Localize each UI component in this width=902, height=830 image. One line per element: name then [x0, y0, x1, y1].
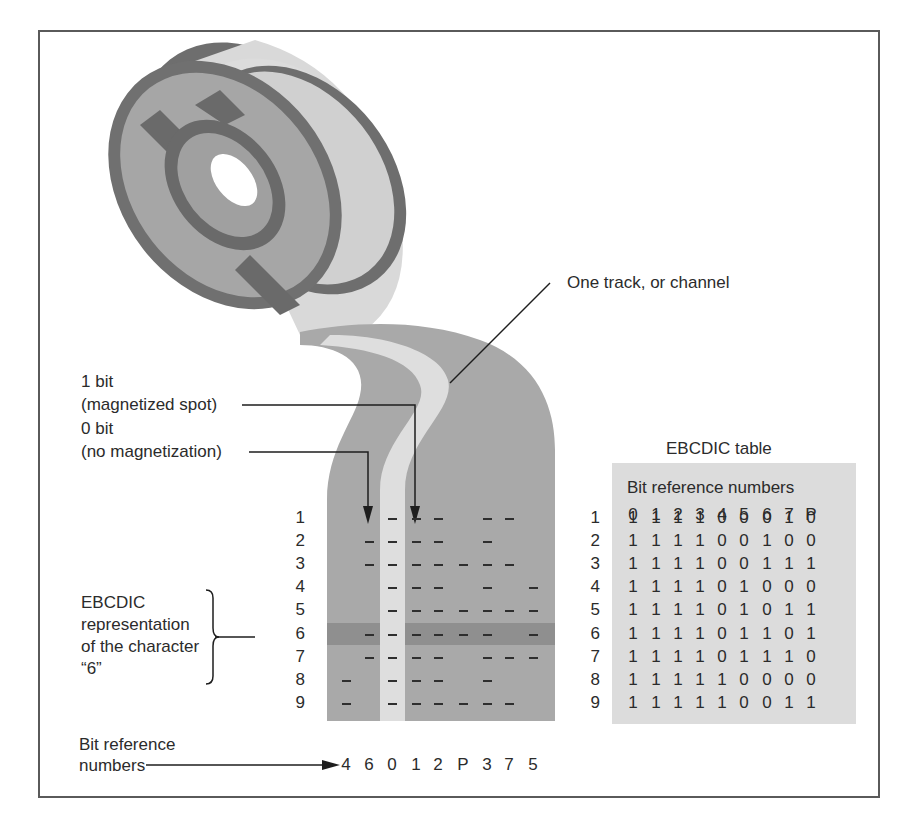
ebcdic-bit: 0 — [756, 670, 778, 690]
ebcdic-bit: 0 — [711, 508, 733, 528]
ebcdic-bit: 1 — [622, 554, 644, 574]
one-bit-mark — [412, 564, 421, 566]
ebcdic-bit: 1 — [689, 554, 711, 574]
ebcdic-row-number: 8 — [580, 670, 600, 690]
one-bit-mark — [388, 587, 397, 589]
one-bit-mark — [434, 703, 443, 705]
one-bit-mark — [483, 518, 492, 520]
tape-bit-label: 1 — [406, 755, 426, 775]
ebcdic-bit: 0 — [778, 531, 800, 551]
ebcdic-bit: 1 — [622, 531, 644, 551]
one-bit-mark — [365, 657, 374, 659]
one-bit-mark — [434, 680, 443, 682]
one-bit-mark — [529, 634, 538, 636]
ebcdic-bit: 1 — [778, 600, 800, 620]
ebcdic-bit: 1 — [778, 508, 800, 528]
tape-bit-label: 7 — [499, 755, 519, 775]
ebcdic-bit: 0 — [733, 693, 755, 713]
ebcdic-bit: 0 — [756, 693, 778, 713]
ebcdic-rep-label-4: “6” — [81, 659, 102, 679]
one-bit-mark — [505, 518, 514, 520]
tape-bit-label: P — [453, 755, 473, 775]
ebcdic-bit: 0 — [733, 508, 755, 528]
ebcdic-bit: 1 — [667, 577, 689, 597]
tape-row-number: 3 — [285, 554, 305, 574]
one-bit-mark — [529, 587, 538, 589]
ebcdic-bit: 1 — [645, 624, 667, 644]
tape-bit-label: 4 — [336, 755, 356, 775]
one-bit-mark — [483, 680, 492, 682]
one-bit-mark — [388, 610, 397, 612]
tape-row-number: 5 — [285, 600, 305, 620]
one-bit-mark — [388, 518, 397, 520]
one-bit-mark — [483, 564, 492, 566]
one-bit-mark — [505, 564, 514, 566]
one-bit-mark — [434, 541, 443, 543]
ebcdic-table-title: EBCDIC table — [666, 439, 772, 459]
ebcdic-bit: 1 — [689, 531, 711, 551]
one-bit-mark — [434, 518, 443, 520]
one-bit-mark — [529, 610, 538, 612]
ebcdic-row-number: 9 — [580, 693, 600, 713]
ebcdic-bit: 0 — [711, 600, 733, 620]
ebcdic-bit: 1 — [800, 693, 822, 713]
one-bit-mark — [412, 657, 421, 659]
ebcdic-bit: 0 — [778, 624, 800, 644]
ebcdic-bit: 1 — [645, 693, 667, 713]
ebcdic-bit: 0 — [800, 670, 822, 690]
tape-row-number: 4 — [285, 577, 305, 597]
one-bit-mark — [412, 634, 421, 636]
ebcdic-bit: 0 — [756, 600, 778, 620]
ebcdic-bit: 1 — [667, 670, 689, 690]
zero-bit-desc: (no magnetization) — [81, 442, 222, 462]
one-bit-mark — [459, 703, 468, 705]
ebcdic-bit: 1 — [733, 577, 755, 597]
one-bit-mark — [412, 610, 421, 612]
one-bit-mark — [388, 680, 397, 682]
ebcdic-bit: 1 — [778, 693, 800, 713]
ebcdic-bit: 1 — [689, 508, 711, 528]
ebcdic-bit: 1 — [778, 554, 800, 574]
one-bit-mark — [412, 587, 421, 589]
ebcdic-row-number: 3 — [580, 554, 600, 574]
ebcdic-bit: 1 — [622, 624, 644, 644]
ebcdic-bit: 1 — [756, 554, 778, 574]
ebcdic-bit: 1 — [800, 554, 822, 574]
one-bit-mark — [434, 657, 443, 659]
one-bit-mark — [483, 541, 492, 543]
ebcdic-bit: 0 — [733, 531, 755, 551]
one-bit-mark — [412, 541, 421, 543]
ebcdic-bit: 0 — [800, 647, 822, 667]
bitref-label-1: Bit reference — [79, 735, 175, 755]
ebcdic-bit: 0 — [756, 508, 778, 528]
tape-row-number: 1 — [285, 508, 305, 528]
ebcdic-bit: 1 — [645, 600, 667, 620]
tape-bit-label: 5 — [523, 755, 543, 775]
ebcdic-bit: 1 — [689, 693, 711, 713]
ebcdic-bit: 1 — [622, 577, 644, 597]
ebcdic-bit: 1 — [733, 624, 755, 644]
one-bit-mark — [365, 564, 374, 566]
ebcdic-bit: 1 — [800, 624, 822, 644]
ebcdic-bit: 1 — [733, 600, 755, 620]
ebcdic-rep-label-1: EBCDIC — [81, 593, 145, 613]
one-bit-mark — [434, 634, 443, 636]
one-bit-desc: (magnetized spot) — [81, 395, 217, 415]
ebcdic-bit: 0 — [711, 554, 733, 574]
ebcdic-bit: 1 — [667, 531, 689, 551]
brace-icon — [206, 590, 219, 684]
one-bit-mark — [342, 703, 351, 705]
ebcdic-bit: 1 — [733, 647, 755, 667]
ebcdic-bit: 0 — [756, 577, 778, 597]
ebcdic-bit: 1 — [622, 600, 644, 620]
zero-bit-label: 0 bit — [81, 419, 113, 439]
ebcdic-bit: 1 — [689, 624, 711, 644]
one-bit-mark — [459, 610, 468, 612]
one-bit-mark — [388, 564, 397, 566]
ebcdic-bit: 0 — [711, 624, 733, 644]
ebcdic-bit: 1 — [645, 670, 667, 690]
track-label: One track, or channel — [567, 273, 730, 293]
tape-row-number: 2 — [285, 531, 305, 551]
one-bit-mark — [483, 703, 492, 705]
ebcdic-bit: 0 — [733, 670, 755, 690]
